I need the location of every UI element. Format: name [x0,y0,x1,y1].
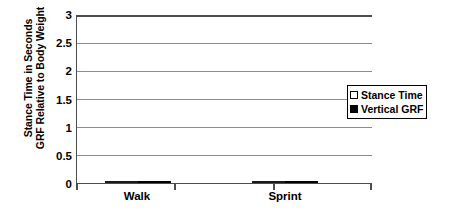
bar-pair-sprint [252,181,318,183]
chart-legend: Stance Time Vertical GRF [347,85,427,119]
y-tick-label-1: 1 [66,122,72,134]
x-axis-labels: Walk Sprint [76,190,372,210]
legend-entry-stance-time[interactable]: Stance Time [350,88,423,102]
category-group-walk [77,15,225,183]
bar-chart: Stance Time in Seconds GRF Relative to B… [0,0,452,215]
y-tick-label-1.5: 1.5 [56,94,72,106]
y-tick-label-2.5: 2.5 [56,37,72,49]
y-tick-label-0: 0 [66,178,72,190]
bars-layer [77,15,372,183]
y-tick-label-3: 3 [66,9,72,21]
legend-label-vertical-grf: Vertical GRF [361,103,423,115]
legend-label-stance-time: Stance Time [361,89,423,101]
y-axis-title-line-2: GRF Relative to Body Weight [35,7,47,149]
bar-walk-stance-time[interactable] [105,181,138,183]
legend-entry-vertical-grf[interactable]: Vertical GRF [350,102,423,116]
bar-walk-vertical-grf[interactable] [138,181,171,183]
y-tick-label-2: 2 [66,65,72,77]
legend-swatch-filled-square-icon [350,105,358,113]
bar-pair-walk [105,181,171,183]
bar-sprint-vertical-grf[interactable] [285,181,318,183]
y-axis-tick-labels: 3 2.5 2 1.5 1 0.5 0 [46,15,72,184]
x-axis-label-walk: Walk [76,190,224,210]
legend-swatch-open-square-icon [350,91,358,99]
y-tick-label-0.5: 0.5 [56,150,72,162]
bar-sprint-stance-time[interactable] [252,181,285,183]
x-axis-label-sprint: Sprint [224,190,372,210]
plot-area [76,15,372,184]
